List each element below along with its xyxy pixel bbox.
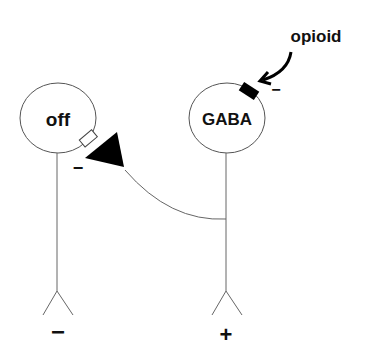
opioid-circuit-diagram: off − GABA + − − opioid <box>0 0 369 356</box>
off-receptor <box>79 130 97 147</box>
gaba-axon <box>125 170 226 219</box>
opioid-arrow <box>263 52 291 80</box>
synapse-sign: − <box>73 158 84 178</box>
opioid-effect-sign: − <box>271 81 280 98</box>
gaba-neuron-label: GABA <box>202 110 252 129</box>
off-output-sign: − <box>51 318 65 345</box>
opioid-receptor <box>239 82 260 100</box>
opioid-label: opioid <box>291 27 342 46</box>
off-neuron-label: off <box>46 109 71 130</box>
gaba-output-sign: + <box>220 322 233 347</box>
